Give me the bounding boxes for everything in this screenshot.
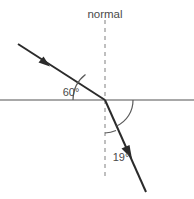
refracted-ray	[105, 100, 146, 192]
angle-of-refraction-label: 19°	[113, 151, 130, 163]
refracted-angle-arc	[117, 100, 134, 126]
angle-of-incidence-label: 60°	[63, 86, 80, 98]
refraction-diagram: normal 60° 19°	[0, 0, 194, 199]
normal-label: normal	[87, 8, 122, 20]
refraction-diagram-canvas: normal 60° 19°	[0, 0, 194, 199]
incident-ray	[18, 44, 105, 100]
angle-of-refraction-tick-arc	[105, 131, 116, 134]
